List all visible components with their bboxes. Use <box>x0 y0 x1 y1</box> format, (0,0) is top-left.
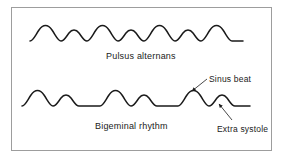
waveform-bigeminal-rhythm <box>22 91 250 107</box>
sinus-beat-leader-line <box>192 79 207 91</box>
callout-label-extra-systole: Extra systole <box>217 124 268 134</box>
extra-systole-leader-line <box>219 104 232 120</box>
label-bigeminal-rhythm: Bigeminal rhythm <box>95 121 168 131</box>
label-pulsus-alternans: Pulsus alternans <box>106 51 176 61</box>
callout-label-sinus-beat: Sinus beat <box>209 74 251 84</box>
pulse-waveform-figure: Pulsus alternans Bigeminal rhythm Sinus … <box>0 0 288 159</box>
waveform-pulsus-alternans <box>30 26 243 42</box>
